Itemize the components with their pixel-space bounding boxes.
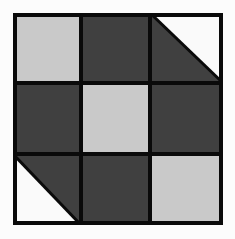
cell-r0-c0-light [13,13,81,83]
cell-r1-c2-dark [150,83,223,154]
cell-r2-c0-half-triangle [13,154,81,225]
cell-r1-c0-dark [13,83,81,154]
cell-r0-c2-half-triangle [150,13,223,83]
quilt-block-svg [13,13,223,225]
cell-r2-c1-dark [81,154,150,225]
quilt-block [13,13,223,225]
cell-r0-c1-dark [81,13,150,83]
cell-r2-c2-light [150,154,223,225]
cell-r1-c1-light [81,83,150,154]
